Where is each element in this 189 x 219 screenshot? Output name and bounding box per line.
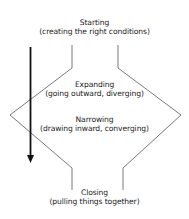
stage-subtitle: (pulling things together) [0,197,189,206]
stage-title: Narrowing [0,115,189,124]
stage-narrowing: Narrowing (drawing inward, converging) [0,115,189,133]
stage-starting: Starting (creating the right conditions) [0,18,189,36]
stage-subtitle: (creating the right conditions) [0,27,189,36]
stage-title: Closing [0,188,189,197]
stage-closing: Closing (pulling things together) [0,188,189,206]
stage-title: Starting [0,18,189,27]
stage-expanding: Expanding (going outward, diverging) [0,80,189,98]
stage-subtitle: (going outward, diverging) [0,89,189,98]
stage-title: Expanding [0,80,189,89]
stage-subtitle: (drawing inward, converging) [0,124,189,133]
time-arrow-icon [27,47,34,163]
